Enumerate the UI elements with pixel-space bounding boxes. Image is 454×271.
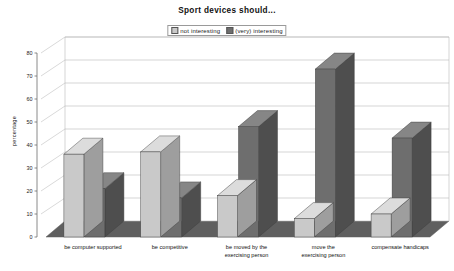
chart-container: Sport devices should... not interesting … bbox=[0, 0, 454, 271]
svg-text:30: 30 bbox=[27, 165, 33, 171]
svg-text:20: 20 bbox=[27, 188, 33, 194]
svg-text:0: 0 bbox=[30, 234, 33, 240]
svg-text:exercising person: exercising person bbox=[301, 252, 345, 258]
svg-text:be moved by the: be moved by the bbox=[226, 244, 267, 250]
y-axis: 01020304050607080 bbox=[27, 50, 38, 240]
svg-text:be competitive: be competitive bbox=[152, 244, 188, 250]
svg-text:60: 60 bbox=[27, 96, 33, 102]
svg-text:70: 70 bbox=[27, 73, 33, 79]
plot-area: 01020304050607080 be computer supportedb… bbox=[0, 0, 454, 271]
svg-text:50: 50 bbox=[27, 119, 33, 125]
x-axis-labels: be computer supportedbe competitivebe mo… bbox=[64, 244, 429, 258]
svg-text:exercising person: exercising person bbox=[225, 252, 269, 258]
svg-text:move the: move the bbox=[312, 244, 335, 250]
svg-text:40: 40 bbox=[27, 142, 33, 148]
svg-text:compensate handicaps: compensate handicaps bbox=[371, 244, 429, 250]
svg-text:80: 80 bbox=[27, 50, 33, 56]
svg-text:be computer supported: be computer supported bbox=[64, 244, 122, 250]
svg-text:10: 10 bbox=[27, 211, 33, 217]
